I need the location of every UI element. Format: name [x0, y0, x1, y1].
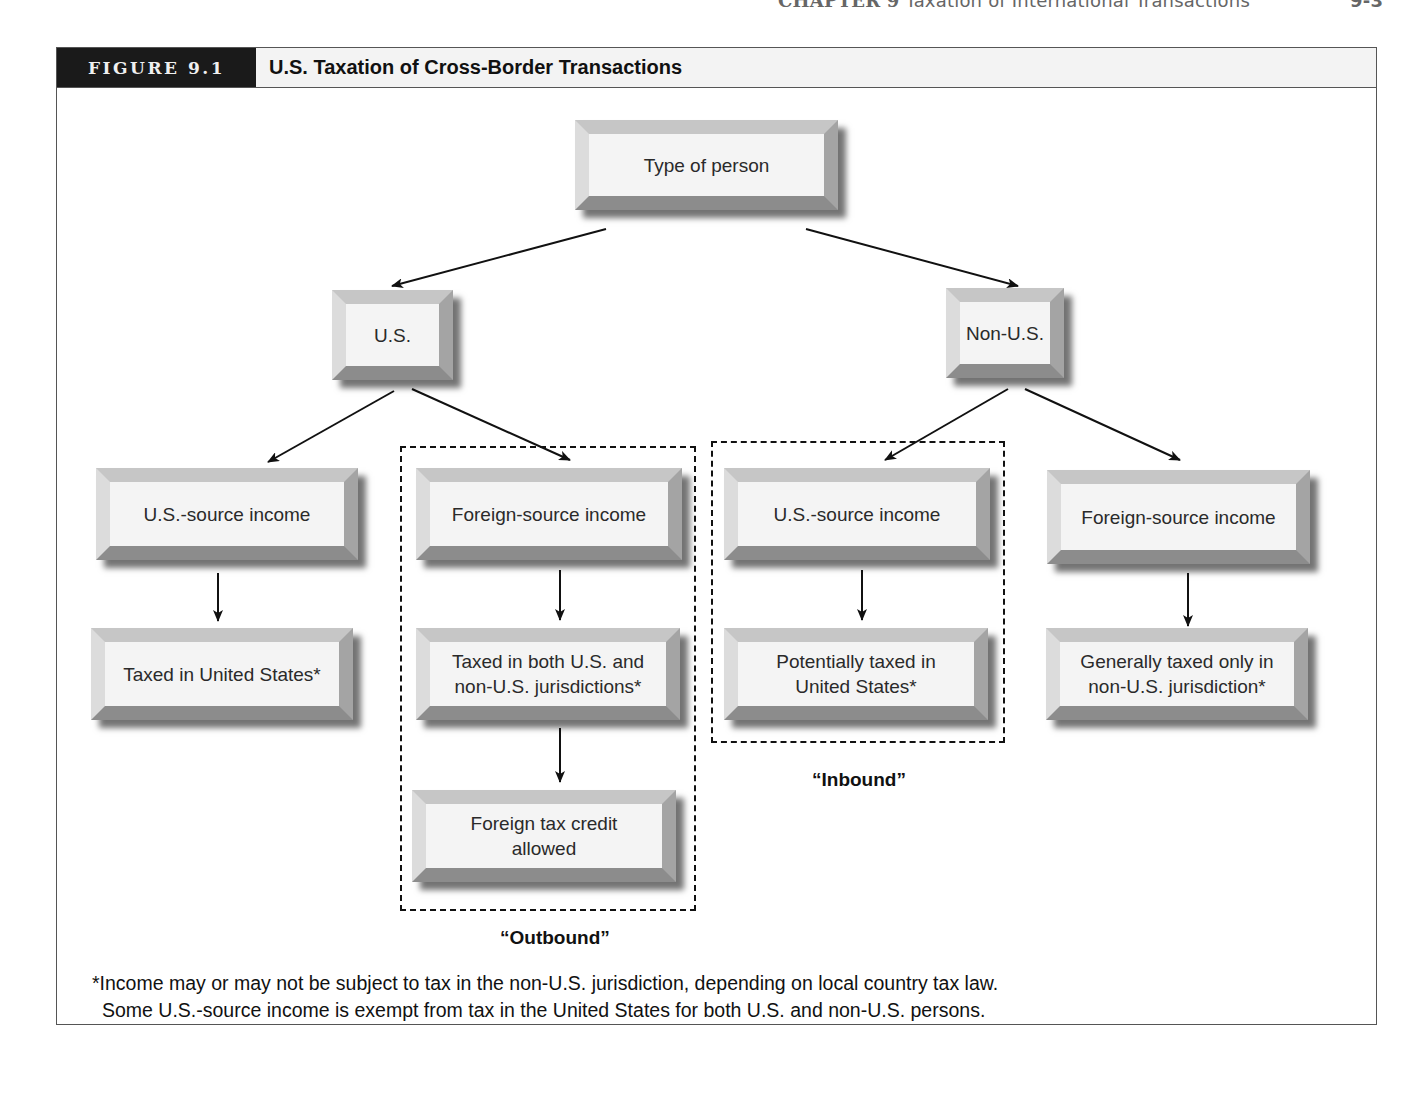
node-label: Foreign tax credit allowed: [471, 811, 618, 861]
node-label: Taxed in United States*: [123, 662, 321, 687]
node-foreign-tax-credit-allowed: Foreign tax credit allowed: [412, 790, 676, 882]
node-taxed-in-both: Taxed in both U.S. and non-U.S. jurisdic…: [416, 628, 680, 720]
node-label: Potentially taxed in United States*: [776, 649, 936, 699]
node-type-of-person: Type of person: [575, 120, 838, 210]
node-label: Generally taxed only in non-U.S. jurisdi…: [1080, 649, 1273, 699]
footnote: *Income may or may not be subject to tax…: [92, 970, 998, 1024]
node-nonus-person-us-source-income: U.S.-source income: [724, 468, 990, 560]
node-taxed-in-united-states: Taxed in United States*: [91, 628, 353, 720]
node-label: Foreign-source income: [452, 502, 646, 527]
node-label-line: Taxed in both U.S. and: [452, 649, 644, 674]
node-label: Non-U.S.: [966, 321, 1044, 346]
node-us: U.S.: [332, 290, 453, 380]
node-label-line: Generally taxed only in: [1080, 649, 1273, 674]
node-label-line: Potentially taxed in: [776, 649, 936, 674]
arrow-nonus-to-foreign-source: [1025, 389, 1180, 460]
node-potentially-taxed-in-us: Potentially taxed in United States*: [724, 628, 988, 720]
node-us-person-foreign-source-income: Foreign-source income: [416, 468, 682, 560]
node-us-person-us-source-income: U.S.-source income: [96, 468, 358, 560]
arrow-us-to-foreign-source: [412, 389, 570, 460]
node-label: Foreign-source income: [1081, 505, 1275, 530]
node-label: Type of person: [644, 153, 770, 178]
node-label-line: allowed: [471, 836, 618, 861]
node-non-us: Non-U.S.: [946, 288, 1064, 378]
arrow-root-to-nonus: [806, 229, 1018, 286]
arrow-us-to-us-source: [268, 391, 394, 462]
node-label-line: non-U.S. jurisdiction*: [1080, 674, 1273, 699]
node-label-line: Foreign tax credit: [471, 811, 618, 836]
node-label: U.S.: [374, 323, 411, 348]
footnote-line-1: *Income may or may not be subject to tax…: [92, 970, 998, 997]
outbound-label: “Outbound”: [500, 927, 610, 949]
node-label: U.S.-source income: [144, 502, 311, 527]
node-label-line: United States*: [776, 674, 936, 699]
node-nonus-person-foreign-source-income: Foreign-source income: [1047, 470, 1310, 564]
arrow-root-to-us: [392, 229, 606, 286]
footnote-line-2: Some U.S.-source income is exempt from t…: [92, 997, 998, 1024]
node-label-line: non-U.S. jurisdictions*: [452, 674, 644, 699]
node-label: U.S.-source income: [774, 502, 941, 527]
inbound-label: “Inbound”: [812, 769, 906, 791]
node-label: Taxed in both U.S. and non-U.S. jurisdic…: [452, 649, 644, 699]
arrow-nonus-to-us-source: [885, 389, 1008, 460]
node-generally-taxed-only-non-us: Generally taxed only in non-U.S. jurisdi…: [1046, 628, 1308, 720]
